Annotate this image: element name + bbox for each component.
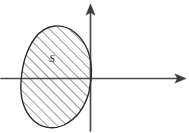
math-diagram: S	[0, 0, 189, 133]
region-label-s: S	[49, 52, 55, 64]
region-hatch-fill	[0, 0, 189, 133]
figure-canvas: S	[0, 0, 189, 133]
